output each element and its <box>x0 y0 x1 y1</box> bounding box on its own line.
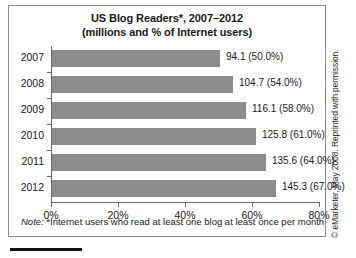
footnote-text: *Internet users who read at least one bl… <box>46 216 324 227</box>
x-axis-tick <box>118 202 119 207</box>
bottom-rule <box>10 248 82 251</box>
copyright-credit: © eMarketer, May 2008. Reprinted with pe… <box>330 6 344 238</box>
plot-area: 2007 94.1 (50.0%) 2008 104.7 (54.0%) 200… <box>51 46 319 202</box>
category-label: 2008 <box>21 77 44 89</box>
category-label: 2012 <box>21 181 44 193</box>
bar <box>52 50 220 67</box>
chart-footnote: Note: *Internet users who read at least … <box>21 216 324 228</box>
category-label: 2011 <box>21 155 44 167</box>
bar <box>52 102 246 119</box>
y-axis-tick <box>47 72 51 73</box>
bar-value-label: 94.1 (50.0%) <box>226 51 283 63</box>
bar-value-label: 116.1 (58.0%) <box>252 103 314 115</box>
table-row: 2008 104.7 (54.0%) <box>51 72 319 98</box>
bar <box>52 180 276 197</box>
x-axis-tick <box>185 202 186 207</box>
table-row: 2011 135.6 (64.0%) <box>51 150 319 176</box>
bar <box>52 154 266 171</box>
chart-frame: US Blog Readers*, 2007–2012 (millions an… <box>8 5 326 237</box>
category-label: 2007 <box>21 51 44 63</box>
x-axis-tick <box>51 202 52 207</box>
y-axis-tick <box>47 176 51 177</box>
y-axis-tick <box>47 124 51 125</box>
bar-value-label: 135.6 (64.0%) <box>272 155 335 167</box>
bar-value-label: 104.7 (54.0%) <box>239 77 302 89</box>
x-axis-tick <box>252 202 253 207</box>
table-row: 2010 125.8 (61.0%) <box>51 124 319 150</box>
table-row: 2007 94.1 (50.0%) <box>51 46 319 72</box>
chart-title-subtitle: (millions and % of Internet users) <box>9 26 325 40</box>
x-axis-tick <box>319 202 320 207</box>
bar <box>52 76 233 93</box>
y-axis-tick <box>47 98 51 99</box>
bar <box>52 128 256 145</box>
category-label: 2009 <box>21 103 44 115</box>
y-axis-tick <box>47 150 51 151</box>
footnote-lead: Note: <box>21 216 44 227</box>
table-row: 2009 116.1 (58.0%) <box>51 98 319 124</box>
category-label: 2010 <box>21 129 44 141</box>
chart-title-main: US Blog Readers*, 2007–2012 <box>91 12 243 24</box>
bar-value-label: 125.8 (61.0%) <box>262 129 325 141</box>
chart-title: US Blog Readers*, 2007–2012 (millions an… <box>9 12 325 39</box>
table-row: 2012 145.3 (67.0%) <box>51 176 319 202</box>
